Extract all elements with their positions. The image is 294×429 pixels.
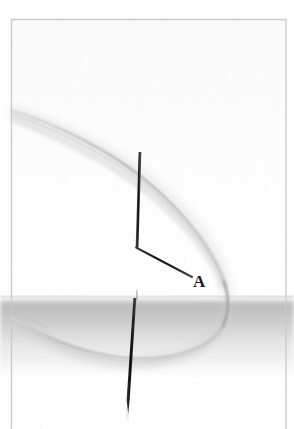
needle-surface-crossing xyxy=(136,290,137,300)
needle-tip-fade xyxy=(127,408,128,420)
figure-root: A xyxy=(0,0,294,429)
label-a: A xyxy=(193,273,205,290)
surgical-illustration-canvas xyxy=(0,0,294,429)
